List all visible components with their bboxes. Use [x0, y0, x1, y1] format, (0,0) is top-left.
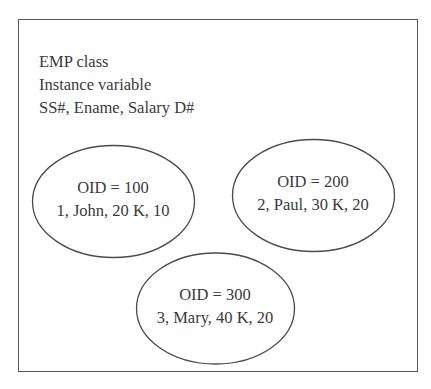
instance-3: OID = 300 3, Mary, 40 K, 20 — [157, 283, 274, 329]
instance-2: OID = 200 2, Paul, 30 K, 20 — [257, 170, 368, 216]
instance-oid: OID = 100 — [56, 176, 169, 199]
instance-oid: OID = 300 — [157, 283, 274, 306]
instance-1: OID = 100 1, John, 20 K, 10 — [56, 176, 169, 222]
instance-values: 2, Paul, 30 K, 20 — [257, 193, 368, 216]
instance-oid: OID = 200 — [257, 170, 368, 193]
instance-values: 3, Mary, 40 K, 20 — [157, 306, 274, 329]
instance-values: 1, John, 20 K, 10 — [56, 199, 169, 222]
